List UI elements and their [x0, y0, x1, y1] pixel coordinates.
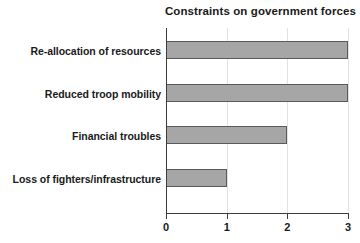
x-tick-label: 0 — [151, 221, 181, 233]
x-tick-label: 1 — [212, 221, 242, 233]
x-tick-mark — [227, 214, 228, 219]
category-label: Re-allocation of resources — [0, 45, 161, 57]
bar — [166, 126, 287, 144]
category-label: Financial troubles — [0, 130, 161, 142]
x-axis-line — [166, 213, 349, 214]
x-tick-mark — [166, 214, 167, 219]
category-label: Loss of fighters/infrastructure — [0, 173, 161, 185]
x-tick-label: 2 — [272, 221, 302, 233]
x-tick-mark — [348, 214, 349, 219]
bar — [166, 84, 348, 102]
bar-chart: Constraints on government forces Re-allo… — [0, 0, 360, 243]
y-axis-line — [166, 28, 167, 214]
x-tick-label: 3 — [333, 221, 360, 233]
x-tick-mark — [287, 214, 288, 219]
bar — [166, 169, 227, 187]
gridline-x-3 — [348, 28, 349, 213]
category-label: Reduced troop mobility — [0, 88, 161, 100]
chart-title: Constraints on government forces — [0, 5, 356, 17]
bar — [166, 41, 348, 59]
